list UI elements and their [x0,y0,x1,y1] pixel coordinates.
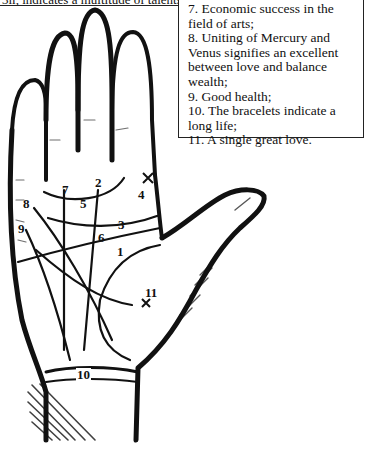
legend-item-10: 10. The bracelets indicate a long life; [188,104,359,133]
legend-item-8: 8. Uniting of Mercury and Venus signifie… [188,31,359,89]
line-label-4: 4 [138,188,145,201]
line-label-3: 3 [118,218,125,231]
line-label-6: 6 [98,231,105,244]
legend-item-9: 9. Good health; [188,90,359,105]
line-label-5: 5 [80,197,87,210]
line-label-2: 2 [95,176,102,189]
line-label-9: 9 [18,222,25,235]
line-label-7: 7 [62,183,69,196]
line-label-10: 10 [76,368,91,381]
legend-item-7: 7. Economic success in the field of arts… [188,2,359,31]
legend-item-11: 11. A single great love. [188,133,359,148]
line-label-1: 1 [117,245,124,258]
line-label-8: 8 [23,197,30,210]
legend-box: 7. Economic success in the field of arts… [178,0,364,138]
line-label-11: 11 [145,286,157,299]
